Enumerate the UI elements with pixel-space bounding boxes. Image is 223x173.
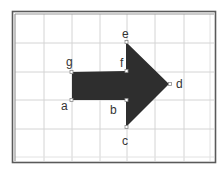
vertex-b-marker: [125, 99, 128, 102]
label-d: d: [176, 77, 183, 91]
label-a: a: [61, 99, 68, 113]
vertex-a-marker: [70, 99, 73, 102]
label-b: b: [110, 103, 117, 117]
label-c: c: [122, 134, 128, 148]
arrow-shape: [72, 42, 169, 127]
label-e: e: [122, 27, 129, 41]
arrow-diagram: a b c d e f g: [0, 0, 223, 173]
vertex-c-marker: [125, 126, 128, 129]
label-g: g: [66, 55, 73, 69]
vertex-f-marker: [125, 70, 128, 73]
vertex-d-marker: [169, 83, 172, 86]
label-f: f: [120, 56, 124, 70]
vertex-g-marker: [70, 71, 73, 74]
